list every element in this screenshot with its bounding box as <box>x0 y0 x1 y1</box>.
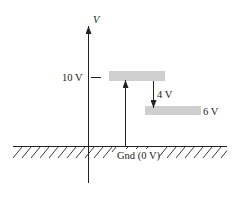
drop-label: 4 V <box>157 89 173 100</box>
level-label-10v: 10 V <box>62 72 83 83</box>
level-label-6v: 6 V <box>203 106 219 117</box>
axis-label: V <box>93 14 101 25</box>
voltage-diagram: V 10 V 6 V 4 V <box>0 0 237 199</box>
level-bar-10v <box>109 71 165 81</box>
ground-label: Gnd (0 V) <box>117 150 160 162</box>
